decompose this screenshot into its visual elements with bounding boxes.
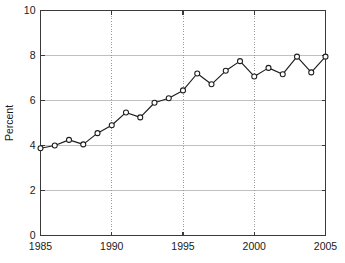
y-axis-tick-labels: 0246810: [24, 4, 36, 241]
y-tick-label: 10: [24, 4, 36, 16]
data-point: [323, 54, 328, 59]
x-tick-label: 2000: [243, 240, 267, 252]
data-point: [52, 143, 57, 148]
y-tick-label: 2: [30, 184, 36, 196]
data-point: [124, 110, 129, 115]
x-tick-label: 2005: [314, 240, 338, 252]
data-point: [67, 137, 72, 142]
y-tick-label: 8: [30, 49, 36, 61]
line-chart: 0246810 19851990199520002005 Percent: [0, 0, 345, 263]
data-point: [195, 71, 200, 76]
x-tick-label: 1985: [29, 240, 53, 252]
data-point: [152, 100, 157, 105]
y-axis-title: Percent: [3, 105, 15, 141]
data-point: [209, 82, 214, 87]
chart-container: 0246810 19851990199520002005 Percent: [0, 0, 345, 263]
x-tick-label: 1995: [171, 240, 195, 252]
data-point: [238, 59, 243, 64]
data-point: [138, 115, 143, 120]
data-point: [295, 54, 300, 59]
data-point: [280, 72, 285, 77]
data-point: [223, 68, 228, 73]
vertical-gridlines: [112, 11, 255, 236]
data-point: [181, 88, 186, 93]
data-point: [309, 70, 314, 75]
x-axis-tick-labels: 19851990199520002005: [29, 240, 338, 252]
data-point: [166, 96, 171, 101]
data-point: [95, 131, 100, 136]
x-tick-label: 1990: [100, 240, 124, 252]
data-point: [109, 123, 114, 128]
data-point: [81, 142, 86, 147]
y-tick-label: 6: [30, 94, 36, 106]
data-point: [266, 65, 271, 70]
data-point: [38, 146, 43, 151]
y-tick-label: 4: [30, 139, 36, 151]
data-point: [252, 74, 257, 79]
